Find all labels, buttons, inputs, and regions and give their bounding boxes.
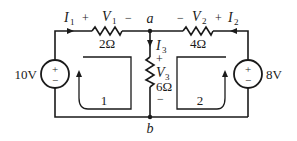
wire-right-top bbox=[213, 31, 248, 60]
current-i2-sub: 2 bbox=[234, 17, 239, 27]
loop-1-label: 1 bbox=[101, 93, 108, 108]
current-i3-arrow-icon bbox=[147, 40, 153, 47]
r1-plus: + bbox=[82, 11, 89, 25]
circuit-diagram: + − + − 10V 8V + V 1 − 2Ω − V 2 + 4Ω + V… bbox=[0, 0, 297, 141]
r1-voltage-label: V bbox=[102, 9, 112, 24]
current-i3-sub: 3 bbox=[162, 45, 167, 55]
loop-1-arrow-icon bbox=[76, 70, 82, 77]
source-left-minus: − bbox=[52, 74, 58, 86]
loop-2-arrow-icon bbox=[222, 70, 228, 77]
current-i1-label: I bbox=[63, 10, 70, 25]
resistor-r1 bbox=[92, 27, 122, 35]
node-a-label: a bbox=[147, 11, 154, 26]
current-i1-sub: 1 bbox=[70, 17, 75, 27]
r1-minus: − bbox=[125, 11, 132, 25]
resistor-r2 bbox=[183, 27, 213, 35]
source-left-value: 10V bbox=[15, 67, 38, 82]
node-a-dot bbox=[148, 29, 152, 33]
resistor-r3 bbox=[146, 57, 154, 87]
r2-voltage-label: V bbox=[192, 9, 202, 24]
current-i2-label: I bbox=[227, 10, 234, 25]
r2-plus: + bbox=[215, 11, 222, 25]
r1-voltage-sub: 1 bbox=[112, 16, 117, 26]
wire-left-top bbox=[55, 31, 92, 60]
source-right-value: 8V bbox=[266, 67, 283, 82]
current-i2-arrow-icon bbox=[230, 28, 237, 34]
current-i1-arrow-icon bbox=[67, 28, 74, 34]
r2-voltage-sub: 2 bbox=[202, 16, 207, 26]
r2-minus: − bbox=[177, 11, 184, 25]
r1-resistance: 2Ω bbox=[99, 36, 115, 51]
source-right-minus: − bbox=[245, 74, 251, 86]
r3-minus: − bbox=[157, 92, 164, 106]
r2-resistance: 4Ω bbox=[190, 36, 206, 51]
wire-bottom bbox=[55, 88, 248, 117]
node-b-label: b bbox=[147, 121, 154, 136]
current-i3-label: I bbox=[155, 38, 162, 53]
loop-2-label: 2 bbox=[197, 93, 204, 108]
node-b-dot bbox=[148, 115, 152, 119]
